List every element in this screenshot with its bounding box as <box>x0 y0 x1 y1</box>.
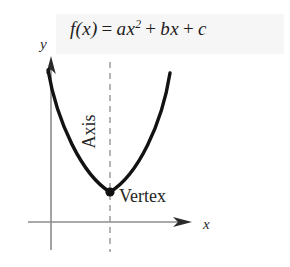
parabola-curve <box>48 70 170 192</box>
vertex-point-marker <box>105 187 114 196</box>
x-axis-label: x <box>203 216 210 233</box>
quadratic-function-figure: f(x)=ax2+bx+c y x Axis Vertex <box>0 0 290 267</box>
y-axis-label: y <box>40 36 47 53</box>
axis-of-symmetry-label: Axis <box>79 103 100 161</box>
vertex-label: Vertex <box>119 186 166 207</box>
